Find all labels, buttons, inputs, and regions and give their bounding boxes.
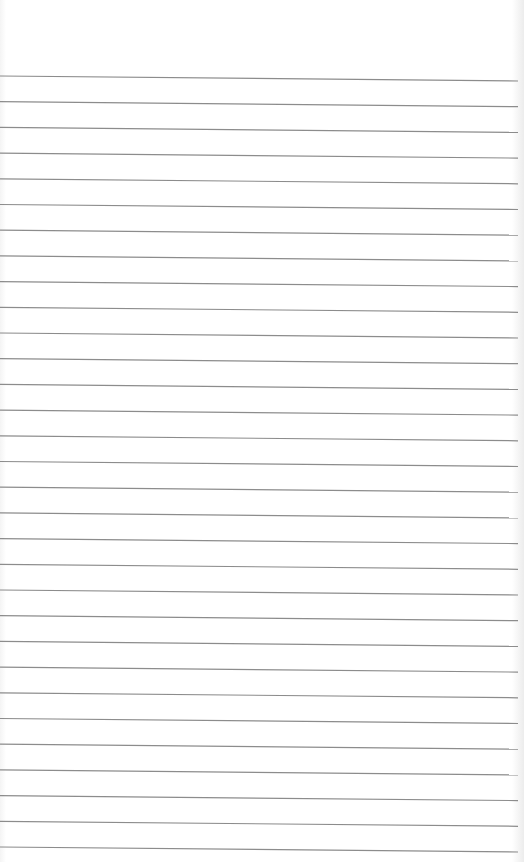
ruled-line: [0, 590, 518, 595]
ruled-lines: [0, 0, 524, 862]
ruled-line: [0, 539, 518, 544]
ruled-line: [0, 307, 518, 312]
ruled-line: [0, 796, 518, 801]
ruled-line: [0, 513, 518, 518]
ruled-line: [0, 102, 518, 107]
ruled-line: [0, 282, 518, 287]
ruled-line: [0, 333, 518, 338]
ruled-line: [0, 205, 518, 210]
ruled-line: [0, 693, 518, 698]
ruled-line: [0, 821, 518, 826]
ruled-line: [0, 462, 518, 467]
ruled-line: [0, 76, 518, 81]
ruled-line: [0, 667, 518, 672]
ruled-line: [0, 641, 518, 646]
ruled-line: [0, 436, 518, 441]
ruled-line: [0, 616, 518, 621]
ruled-line: [0, 230, 518, 235]
ruled-line: [0, 153, 518, 158]
ruled-line: [0, 487, 518, 492]
ruled-line: [0, 179, 518, 184]
ruled-line: [0, 127, 518, 132]
ruled-line: [0, 564, 518, 569]
ruled-line: [0, 719, 518, 724]
ruled-line: [0, 256, 518, 261]
ruled-line: [0, 847, 518, 852]
ruled-line: [0, 410, 518, 415]
lined-paper-page: [0, 0, 524, 862]
ruled-line: [0, 384, 518, 389]
ruled-line: [0, 770, 518, 775]
ruled-line: [0, 359, 518, 364]
ruled-line: [0, 744, 518, 749]
